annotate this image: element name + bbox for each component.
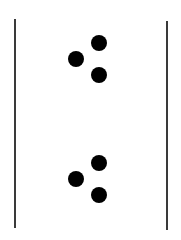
dot: [91, 67, 107, 83]
right-vertical-line: [166, 21, 168, 230]
dot: [68, 51, 84, 67]
dot: [68, 171, 84, 187]
dot: [91, 155, 107, 171]
dot: [91, 35, 107, 51]
left-vertical-line: [14, 19, 16, 228]
dot: [91, 187, 107, 203]
